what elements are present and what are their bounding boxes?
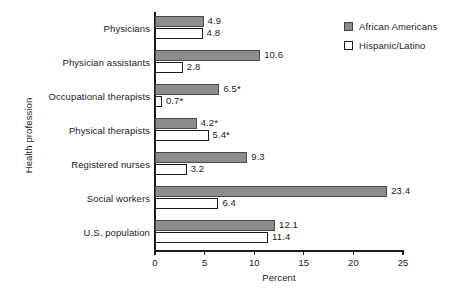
x-axis-tick-label: 15	[299, 257, 310, 268]
bar	[155, 16, 204, 27]
legend-item: African Americans	[344, 18, 437, 34]
bar-value-label: 4.2*	[201, 117, 218, 128]
category-label: Physical therapists	[4, 125, 150, 136]
bar	[155, 96, 162, 107]
bar	[155, 62, 183, 73]
category-label: Registered nurses	[4, 159, 150, 170]
bar-value-label: 3.2	[191, 163, 205, 174]
category-label: Social workers	[4, 193, 150, 204]
bar-chart: Health profession PhysiciansPhysician as…	[0, 0, 472, 300]
bar	[155, 84, 219, 95]
bar-value-label: 11.4	[272, 231, 290, 242]
x-axis-tick-label: 25	[398, 257, 409, 268]
bar-value-label: 12.1	[279, 219, 298, 230]
bar-value-label: 10.6	[264, 49, 283, 60]
bar-value-label: 4.8	[207, 27, 221, 38]
bar	[155, 152, 247, 163]
bar-value-label: 23.4	[391, 185, 410, 196]
x-axis-line	[154, 250, 404, 252]
bar	[155, 50, 260, 61]
bar	[155, 28, 203, 39]
category-label: Physicians	[4, 23, 150, 34]
bar-value-label: 4.9	[208, 15, 222, 26]
bar	[155, 164, 187, 175]
x-axis-tick	[254, 250, 255, 255]
legend-item: Hispanic/Latino	[344, 37, 437, 53]
bar	[155, 232, 268, 243]
x-axis-title: Percent	[155, 272, 403, 283]
bar-value-label: 2.8	[187, 61, 201, 72]
bar	[155, 198, 218, 209]
category-label: U.S. population	[4, 227, 150, 238]
x-axis-tick	[402, 250, 403, 255]
legend-label: Hispanic/Latino	[359, 40, 425, 51]
x-axis-tick	[204, 250, 205, 255]
legend-swatch-icon	[344, 22, 353, 31]
x-axis-tick	[303, 250, 304, 255]
bar	[155, 186, 387, 197]
x-axis-tick-label: 10	[249, 257, 260, 268]
x-axis-tick	[154, 250, 155, 255]
legend-swatch-icon	[344, 41, 353, 50]
x-axis-tick-label: 20	[348, 257, 359, 268]
x-axis-tick	[353, 250, 354, 255]
bar-value-label: 0.7*	[166, 95, 183, 106]
legend-label: African Americans	[359, 21, 437, 32]
bar-value-label: 9.3	[251, 151, 265, 162]
bar	[155, 220, 275, 231]
bar-value-label: 6.5*	[223, 83, 240, 94]
bar	[155, 118, 197, 129]
category-label: Occupational therapists	[4, 91, 150, 102]
bar-value-label: 6.4	[222, 197, 236, 208]
category-label: Physician assistants	[4, 57, 150, 68]
category-label-column: PhysiciansPhysician assistantsOccupation…	[0, 0, 150, 250]
chart-legend: African AmericansHispanic/Latino	[344, 18, 437, 56]
bar	[155, 130, 209, 141]
x-axis-tick-label: 5	[202, 257, 207, 268]
bar-value-label: 5.4*	[213, 129, 230, 140]
x-axis-tick-label: 0	[152, 257, 157, 268]
